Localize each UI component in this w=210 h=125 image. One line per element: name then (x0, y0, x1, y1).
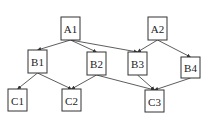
node-b2: B2 (87, 52, 106, 75)
edge-a1-b1 (38, 40, 71, 50)
edge-b1-c2 (38, 73, 72, 89)
node-a1: A1 (61, 17, 80, 40)
edge-a1-b3 (71, 40, 138, 52)
node-label: B1 (31, 56, 44, 68)
node-b1: B1 (28, 50, 47, 73)
node-label: B4 (184, 62, 197, 74)
edge-a2-b4 (158, 40, 191, 57)
node-c1: C1 (8, 89, 27, 111)
node-label: C1 (11, 95, 24, 107)
node-a2: A2 (148, 17, 167, 40)
edge-a2-b3 (138, 40, 158, 52)
edge-a1-b2 (71, 40, 97, 52)
edge-b1-c1 (18, 73, 38, 89)
node-b4: B4 (181, 57, 200, 78)
hierarchy-diagram: A1A2B1B2B3B4C1C2C3 (0, 0, 210, 125)
node-c3: C3 (145, 90, 164, 112)
node-label: C3 (148, 96, 161, 108)
nodes-layer: A1A2B1B2B3B4C1C2C3 (8, 17, 200, 112)
node-b3: B3 (128, 52, 147, 75)
edge-b2-c2 (72, 75, 97, 89)
edge-b4-c3 (155, 78, 191, 90)
node-label: C2 (65, 95, 78, 107)
node-c2: C2 (62, 89, 81, 111)
node-label: A1 (64, 23, 77, 35)
node-label: B3 (131, 58, 144, 70)
node-label: A2 (151, 23, 164, 35)
node-label: B2 (90, 58, 103, 70)
